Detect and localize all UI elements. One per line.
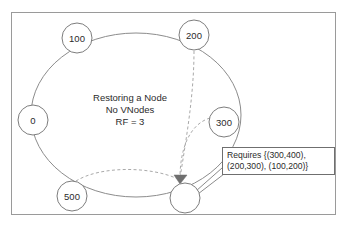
diagram-canvas: 100 200 300 0 500 Restoring a Node No VN… [0, 0, 348, 229]
diagram-vector-layer: 100 200 300 0 500 Restoring a Node No VN… [0, 0, 348, 229]
node-label-500: 500 [64, 191, 80, 202]
caption-line-3: RF = 3 [116, 116, 145, 127]
hash-ring-ellipse [31, 33, 241, 197]
callout-leader-line-bottom [198, 174, 224, 194]
node-label-100: 100 [69, 33, 85, 44]
caption-line-2: No VNodes [106, 104, 155, 115]
requires-callout-box: Requires {(300,400), (200,300), (100,200… [222, 147, 335, 175]
flow-line-from-500 [76, 169, 178, 181]
flow-line-from-200 [180, 51, 194, 178]
node-label-300: 300 [216, 117, 232, 128]
callout-line-2: (200,300), (100,200)} [227, 161, 331, 172]
caption-line-1: Restoring a Node [93, 92, 167, 103]
node-circle-restored[interactable] [170, 183, 200, 213]
callout-leader-line-top [196, 168, 222, 191]
node-label-0: 0 [30, 115, 35, 126]
callout-line-1: Requires {(300,400), [227, 150, 331, 161]
node-label-200: 200 [186, 30, 202, 41]
